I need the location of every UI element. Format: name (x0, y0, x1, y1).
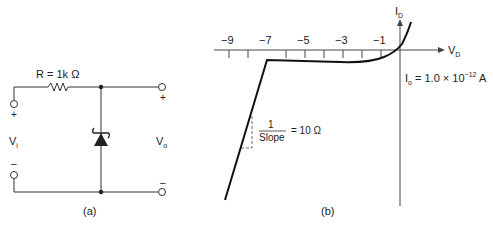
svg-text:−7: −7 (259, 34, 272, 46)
zener-regulator-circuit (11, 83, 166, 196)
slope-annotation: 1 Slope = 10 Ω (259, 119, 322, 143)
output-terminal-top (159, 84, 166, 91)
bottom-wire (14, 175, 158, 192)
input-voltage-label: Vi (9, 135, 18, 149)
junction-top (99, 85, 103, 89)
caption-b: (b) (321, 205, 334, 217)
x-tick-labels: −9 −7 −5 −3 −1 (221, 34, 386, 46)
x-ticks (229, 50, 381, 58)
input-minus: – (11, 158, 17, 169)
output-terminal-bottom (159, 189, 166, 196)
iv-graph (214, 19, 445, 206)
svg-text:−3: −3 (335, 34, 348, 46)
resistor-label: R = 1k Ω (36, 68, 79, 80)
input-terminal-bottom (11, 172, 18, 179)
junction-bottom (99, 190, 103, 194)
svg-text:= 10 Ω: = 10 Ω (291, 125, 322, 136)
iv-curve (225, 22, 411, 200)
output-minus: – (160, 177, 166, 188)
x-axis-arrow-icon (438, 47, 445, 53)
y-axis-label: ID (395, 5, 403, 19)
svg-text:1: 1 (268, 119, 274, 130)
x-axis-label: VD (448, 44, 460, 58)
y-axis-arrow-icon (397, 19, 403, 26)
output-plus: + (160, 92, 166, 103)
caption-a: (a) (83, 205, 96, 217)
saturation-current-label: Io = 1.0 × 10−12 A (405, 71, 487, 86)
diagram-canvas: R = 1k Ω + – Vi + – Vo (a) −9 (0, 0, 493, 227)
output-voltage-label: Vo (156, 135, 167, 149)
svg-text:−9: −9 (221, 34, 234, 46)
input-terminal-top (11, 101, 18, 108)
input-plus: + (11, 109, 17, 120)
resistor-icon (48, 83, 68, 91)
svg-text:−5: −5 (297, 34, 310, 46)
svg-text:−1: −1 (373, 34, 386, 46)
top-wire-left (14, 87, 48, 100)
svg-text:Slope: Slope (259, 132, 285, 143)
